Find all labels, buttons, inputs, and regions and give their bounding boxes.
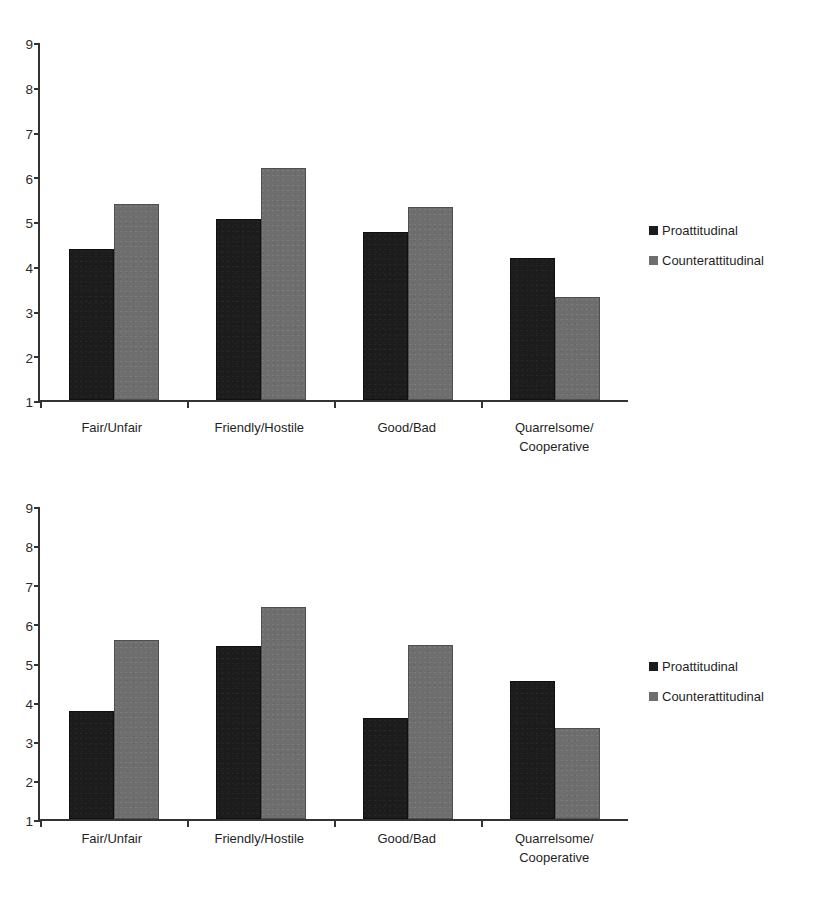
legend-bottom: ProattitudinalCounterattitudinal [649, 660, 764, 720]
bar-proattitudinal [69, 711, 114, 819]
bar-counterattitudinal [408, 645, 453, 819]
x-axis-tick-mark [481, 400, 483, 408]
bar-counterattitudinal [261, 607, 306, 819]
bar-group [481, 44, 628, 400]
bar-group [40, 508, 187, 819]
legend-label: Proattitudinal [662, 224, 738, 237]
bar-counterattitudinal [114, 640, 159, 819]
bar-proattitudinal [363, 718, 408, 819]
x-axis-tick-mark [187, 400, 189, 408]
chart-figure-bottom: 987654321 Fair/UnfairFriendly/HostileGoo… [0, 470, 825, 914]
x-axis-category-label: Quarrelsome/ Cooperative [481, 829, 629, 867]
x-axis-category-label: Quarrelsome/ Cooperative [481, 418, 629, 456]
legend-label: Proattitudinal [662, 660, 738, 673]
x-axis-category-label: Fair/Unfair [38, 418, 186, 456]
legend-item: Proattitudinal [649, 660, 764, 673]
bar-proattitudinal [69, 249, 114, 400]
bar-proattitudinal [510, 681, 555, 819]
bar-group [334, 508, 481, 819]
legend-swatch-icon [649, 226, 658, 235]
bar-counterattitudinal [555, 728, 600, 819]
x-axis-category-label: Friendly/Hostile [186, 418, 334, 456]
chart-figure-top: 987654321 Fair/UnfairFriendly/HostileGoo… [0, 0, 825, 470]
bar-counterattitudinal [555, 297, 600, 400]
x-axis-tick-mark [334, 819, 336, 827]
legend-top: ProattitudinalCounterattitudinal [649, 224, 764, 284]
legend-swatch-icon [649, 692, 658, 701]
bar-proattitudinal [510, 258, 555, 400]
legend-item: Proattitudinal [649, 224, 764, 237]
bar-group [334, 44, 481, 400]
plot-area-top: 987654321 [38, 44, 628, 402]
legend-item: Counterattitudinal [649, 690, 764, 703]
bar-proattitudinal [216, 646, 261, 819]
x-axis-tick-mark [40, 400, 42, 408]
plot-area-bottom: 987654321 [38, 508, 628, 821]
legend-swatch-icon [649, 256, 658, 265]
legend-item: Counterattitudinal [649, 254, 764, 267]
legend-label: Counterattitudinal [662, 254, 764, 267]
bar-group [187, 44, 334, 400]
x-axis-tick-mark [40, 819, 42, 827]
bar-counterattitudinal [114, 204, 159, 400]
bar-group [481, 508, 628, 819]
legend-label: Counterattitudinal [662, 690, 764, 703]
bar-groups-top [40, 44, 628, 400]
bar-counterattitudinal [261, 168, 306, 400]
bar-proattitudinal [363, 232, 408, 400]
bar-proattitudinal [216, 219, 261, 400]
bar-counterattitudinal [408, 207, 453, 400]
x-axis-category-label: Friendly/Hostile [186, 829, 334, 867]
x-axis-category-label: Good/Bad [333, 829, 481, 867]
x-axis-tick-mark [187, 819, 189, 827]
bar-groups-bottom [40, 508, 628, 819]
bar-group [40, 44, 187, 400]
x-axis-category-label: Fair/Unfair [38, 829, 186, 867]
x-axis-category-label: Good/Bad [333, 418, 481, 456]
x-axis-category-labels-bottom: Fair/UnfairFriendly/HostileGood/BadQuarr… [38, 829, 628, 867]
legend-swatch-icon [649, 662, 658, 671]
x-axis-category-labels-top: Fair/UnfairFriendly/HostileGood/BadQuarr… [38, 418, 628, 456]
x-axis-tick-mark [334, 400, 336, 408]
bar-group [187, 508, 334, 819]
x-axis-tick-mark [481, 819, 483, 827]
